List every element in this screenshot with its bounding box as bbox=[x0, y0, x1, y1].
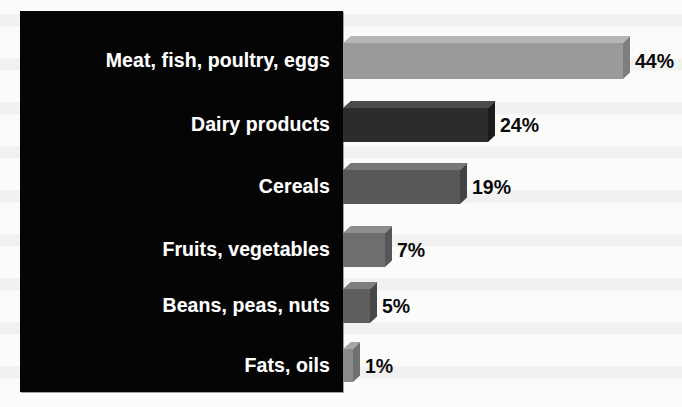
bar-front-face bbox=[343, 289, 370, 323]
bar-front-face bbox=[343, 170, 460, 204]
bar-rows-container: Meat, fish, poultry, eggs 44% Dairy prod… bbox=[0, 0, 682, 407]
category-label: Cereals bbox=[259, 177, 330, 197]
bar-value-label: 24% bbox=[500, 116, 539, 136]
category-label: Beans, peas, nuts bbox=[162, 296, 330, 316]
bar-row: Beans, peas, nuts 5% bbox=[0, 282, 682, 323]
bar-row: Cereals 19% bbox=[0, 163, 682, 204]
bar-side-face bbox=[385, 226, 392, 267]
bar-side-face bbox=[370, 282, 377, 323]
bar-value-label: 5% bbox=[382, 297, 410, 317]
bar-value-label: 1% bbox=[365, 357, 393, 377]
category-label: Fruits, vegetables bbox=[162, 240, 330, 260]
bar-row: Fruits, vegetables 7% bbox=[0, 226, 682, 267]
bar-value-label: 44% bbox=[635, 52, 674, 72]
bar-3d bbox=[343, 282, 377, 323]
bar-front-face bbox=[343, 43, 623, 79]
bar-3d bbox=[343, 101, 495, 142]
category-label: Dairy products bbox=[191, 115, 330, 135]
bar-row: Meat, fish, poultry, eggs 44% bbox=[0, 36, 682, 79]
bar-3d bbox=[343, 342, 360, 382]
bar-top-face bbox=[343, 36, 631, 43]
category-label: Meat, fish, poultry, eggs bbox=[106, 51, 330, 71]
bar-value-label: 7% bbox=[397, 241, 425, 261]
bar-top-face bbox=[343, 163, 468, 170]
bar-front-face bbox=[343, 233, 385, 267]
bar-front-face bbox=[343, 349, 353, 382]
bar-3d bbox=[343, 36, 630, 79]
bar-3d bbox=[343, 226, 392, 267]
bar-3d bbox=[343, 163, 467, 204]
category-label: Fats, oils bbox=[244, 356, 330, 376]
bar-side-face bbox=[488, 101, 495, 142]
bar-side-face bbox=[460, 163, 467, 204]
bar-side-face bbox=[623, 36, 630, 79]
bar-row: Fats, oils 1% bbox=[0, 342, 682, 382]
bar-side-face bbox=[353, 342, 360, 382]
bar-front-face bbox=[343, 108, 488, 142]
chart-figure: Meat, fish, poultry, eggs 44% Dairy prod… bbox=[0, 0, 682, 407]
bar-value-label: 19% bbox=[472, 178, 511, 198]
bar-top-face bbox=[343, 101, 496, 108]
bar-row: Dairy products 24% bbox=[0, 101, 682, 142]
